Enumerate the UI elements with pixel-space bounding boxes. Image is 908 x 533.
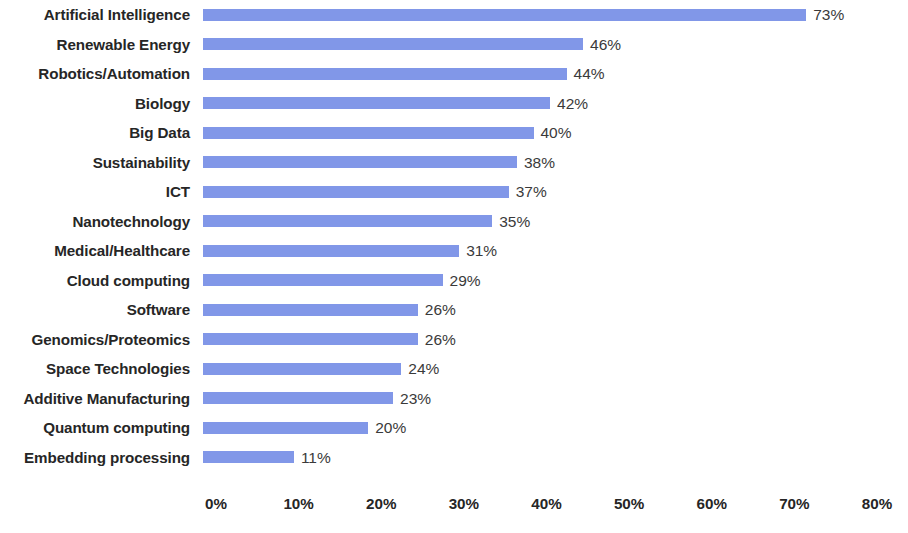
bar-value-label: 38% <box>524 155 555 171</box>
bar <box>203 68 567 80</box>
bar-chart: Artificial Intelligence73%Renewable Ener… <box>0 0 908 533</box>
category-label: Space Technologies <box>0 361 203 376</box>
category-label: Sustainability <box>0 155 203 170</box>
category-label: Additive Manufacturing <box>0 391 203 406</box>
bar-track: 24% <box>203 354 908 384</box>
bar-value-label: 44% <box>574 66 605 82</box>
bar-value-label: 23% <box>400 391 431 407</box>
bar-row: Software26% <box>0 295 908 325</box>
bar-row: Biology42% <box>0 89 908 119</box>
bar-value-label: 37% <box>516 184 547 200</box>
bar-value-label: 20% <box>375 420 406 436</box>
bar-track: 26% <box>203 325 908 355</box>
category-label: Software <box>0 302 203 317</box>
bar-track: 38% <box>203 148 908 178</box>
bar-row: Embedding processing11% <box>0 443 908 473</box>
bar <box>203 9 806 21</box>
category-label: Robotics/Automation <box>0 66 203 81</box>
bar <box>203 97 550 109</box>
x-axis-tick-label: 40% <box>531 496 561 511</box>
bar <box>203 156 517 168</box>
bar-row: Artificial Intelligence73% <box>0 0 908 30</box>
bar <box>203 363 401 375</box>
bar-track: 46% <box>203 30 908 60</box>
bar <box>203 38 583 50</box>
category-label: Biology <box>0 96 203 111</box>
bar-row: Sustainability38% <box>0 148 908 178</box>
bar-row: Space Technologies24% <box>0 354 908 384</box>
category-label: Big Data <box>0 125 203 140</box>
bar-row: Genomics/Proteomics26% <box>0 325 908 355</box>
bar-row: ICT37% <box>0 177 908 207</box>
x-axis-tick-label: 0% <box>205 496 227 511</box>
bar-value-label: 35% <box>499 214 530 230</box>
bar-track: 31% <box>203 236 908 266</box>
bar-value-label: 11% <box>301 450 331 466</box>
category-label: ICT <box>0 184 203 199</box>
category-label: Renewable Energy <box>0 37 203 52</box>
bar-row: Nanotechnology35% <box>0 207 908 237</box>
x-axis-tick-label: 80% <box>862 496 892 511</box>
x-axis: 0%10%20%30%40%50%60%70%80% <box>216 496 877 526</box>
category-label: Embedding processing <box>0 450 203 465</box>
bar <box>203 215 492 227</box>
bar-track: 44% <box>203 59 908 89</box>
x-axis-tick-label: 20% <box>366 496 396 511</box>
category-label: Nanotechnology <box>0 214 203 229</box>
bar-row: Quantum computing20% <box>0 413 908 443</box>
bar-track: 37% <box>203 177 908 207</box>
plot-area: Artificial Intelligence73%Renewable Ener… <box>0 0 908 492</box>
bar <box>203 451 294 463</box>
category-label: Quantum computing <box>0 420 203 435</box>
bar <box>203 392 393 404</box>
x-axis-tick-label: 50% <box>614 496 644 511</box>
bar-track: 35% <box>203 207 908 237</box>
x-axis-tick-label: 70% <box>779 496 809 511</box>
x-axis-tick-label: 10% <box>283 496 313 511</box>
category-label: Medical/Healthcare <box>0 243 203 258</box>
category-label: Artificial Intelligence <box>0 7 203 22</box>
bar-value-label: 26% <box>425 332 456 348</box>
category-label: Cloud computing <box>0 273 203 288</box>
x-axis-tick-label: 30% <box>449 496 479 511</box>
bar-value-label: 31% <box>466 243 497 259</box>
bar-row: Big Data40% <box>0 118 908 148</box>
bar-row: Additive Manufacturing23% <box>0 384 908 414</box>
bar-track: 20% <box>203 413 908 443</box>
bar-value-label: 46% <box>590 37 621 53</box>
bar <box>203 186 509 198</box>
x-axis-tick-label: 60% <box>697 496 727 511</box>
bar-row: Renewable Energy46% <box>0 30 908 60</box>
bar-value-label: 24% <box>408 361 439 377</box>
bar-track: 40% <box>203 118 908 148</box>
bar <box>203 333 418 345</box>
bar <box>203 422 368 434</box>
bar-value-label: 40% <box>541 125 572 141</box>
bar-value-label: 26% <box>425 302 456 318</box>
bar-track: 73% <box>203 0 908 30</box>
bar-value-label: 73% <box>813 7 844 23</box>
bar-value-label: 42% <box>557 96 588 112</box>
bar <box>203 304 418 316</box>
bar <box>203 127 534 139</box>
bar-row: Medical/Healthcare31% <box>0 236 908 266</box>
bar-value-label: 29% <box>450 273 481 289</box>
bar-track: 11% <box>203 443 908 473</box>
bar <box>203 274 443 286</box>
category-label: Genomics/Proteomics <box>0 332 203 347</box>
bar-track: 29% <box>203 266 908 296</box>
bar <box>203 245 459 257</box>
bar-row: Robotics/Automation44% <box>0 59 908 89</box>
bar-row: Cloud computing29% <box>0 266 908 296</box>
bar-track: 42% <box>203 89 908 119</box>
bar-track: 23% <box>203 384 908 414</box>
bar-track: 26% <box>203 295 908 325</box>
